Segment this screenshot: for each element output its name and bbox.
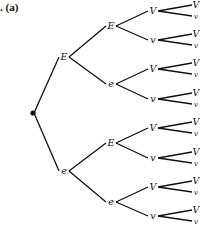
tree-edge <box>158 93 192 99</box>
leaf-label-V: V <box>193 88 200 98</box>
tree-edge <box>116 128 148 143</box>
leaf-label-v: v <box>194 161 198 168</box>
tree-edge <box>116 202 148 216</box>
tree-edge <box>158 40 192 45</box>
tree-edge <box>116 26 148 40</box>
tree-edge <box>158 152 192 158</box>
node-label-v: v <box>150 35 155 45</box>
leaf-label-v: v <box>194 72 198 79</box>
node-label-e: e <box>108 79 114 89</box>
leaf-label-V: V <box>193 0 200 10</box>
leaf-label-v: v <box>194 190 198 197</box>
leaf-label-v: v <box>194 219 198 226</box>
tree-edge <box>158 5 192 11</box>
node-label-v: v <box>150 94 155 104</box>
tree-edge <box>158 181 192 187</box>
tree-edge <box>158 63 192 69</box>
leaf-label-V: V <box>193 205 200 215</box>
tree-edge <box>34 57 59 113</box>
tree-edge <box>116 84 148 99</box>
node-label-v: v <box>150 211 155 221</box>
node-label-V: V <box>150 64 157 74</box>
probability-tree-diagram: . (a) EeEeEeVvVvVvVvVvVvVvVvVvVvVvVv <box>0 0 200 229</box>
tree-edge <box>158 69 192 74</box>
tree-edge <box>158 158 192 163</box>
tree-edge <box>158 187 192 192</box>
node-label-e: e <box>108 197 114 207</box>
tree-edge <box>69 26 106 57</box>
leaf-label-V: V <box>193 147 200 157</box>
leaf-label-v: v <box>194 131 198 138</box>
leaf-label-V: V <box>193 117 200 127</box>
tree-edge <box>158 210 192 216</box>
node-label-E: E <box>108 138 115 148</box>
tree-edge <box>158 11 192 16</box>
tree-edge <box>158 122 192 128</box>
node-label-V: V <box>150 123 157 133</box>
tree-edge <box>158 34 192 40</box>
tree-edge <box>69 57 106 84</box>
node-label-V: V <box>150 6 157 16</box>
tree-edge <box>158 216 192 221</box>
tree-edges <box>0 0 200 229</box>
leaf-label-v: v <box>194 43 198 50</box>
node-label-E: E <box>61 52 68 62</box>
tree-edge <box>116 11 148 26</box>
leaf-label-V: V <box>193 29 200 39</box>
tree-edge <box>34 113 59 171</box>
node-label-e: e <box>61 166 67 176</box>
tree-edge <box>158 128 192 133</box>
tree-edge <box>116 69 148 84</box>
node-label-v: v <box>150 153 155 163</box>
tree-edge <box>116 187 148 202</box>
tree-edge <box>116 143 148 158</box>
leaf-label-v: v <box>194 14 198 21</box>
tree-edge <box>69 143 106 171</box>
node-label-E: E <box>108 21 115 31</box>
leaf-label-v: v <box>194 102 198 109</box>
node-label-V: V <box>150 182 157 192</box>
tree-edge <box>158 99 192 104</box>
tree-edge <box>69 171 106 202</box>
leaf-label-V: V <box>193 58 200 68</box>
leaf-label-V: V <box>193 176 200 186</box>
